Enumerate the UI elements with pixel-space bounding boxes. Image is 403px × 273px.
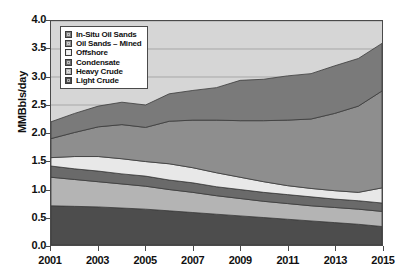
y-tick-label: 0.5: [0, 211, 46, 223]
y-tick-label: 3.0: [0, 70, 46, 82]
x-tick-label: 2007: [181, 254, 204, 266]
legend-label: Light Crude: [76, 76, 119, 85]
x-tick-mark: [50, 246, 51, 251]
legend-item: Light Crude: [65, 76, 142, 85]
y-tick-label: 3.5: [0, 41, 46, 53]
legend-swatch-icon: [65, 40, 72, 47]
x-tick-mark: [335, 246, 336, 251]
y-axis-ticks: 0.00.51.01.52.02.53.03.54.0: [0, 0, 50, 273]
x-tick-mark: [288, 246, 289, 251]
legend-item: Condensate: [65, 58, 142, 67]
legend-swatch-icon: [65, 31, 72, 38]
x-axis-ticks: 20012003200520072009201120132015: [0, 246, 403, 273]
x-tick-mark: [193, 246, 194, 251]
x-tick-label: 2005: [134, 254, 157, 266]
chart-figure: MMBbls/day 0.00.51.01.52.02.53.03.54.0 2…: [0, 0, 403, 273]
legend-item: Heavy Crude: [65, 67, 142, 76]
legend-item: Offshore: [65, 48, 142, 57]
x-tick-label: 2013: [324, 254, 347, 266]
x-tick-label: 2011: [277, 254, 300, 266]
legend-label: Offshore: [76, 48, 108, 57]
legend-label: Condensate: [76, 58, 120, 67]
y-tick-label: 1.0: [0, 183, 46, 195]
y-tick-label: 2.5: [0, 98, 46, 110]
x-tick-mark: [240, 246, 241, 251]
legend-item: Oil Sands – Mined: [65, 39, 142, 48]
x-tick-label: 2001: [38, 254, 61, 266]
legend-label: Oil Sands – Mined: [76, 39, 142, 48]
legend-swatch-icon: [65, 59, 72, 66]
legend-label: Heavy Crude: [76, 67, 123, 76]
y-tick-label: 1.5: [0, 154, 46, 166]
chart-legend: In-Situ Oil SandsOil Sands – MinedOffsho…: [60, 26, 148, 89]
legend-item: In-Situ Oil Sands: [65, 30, 142, 39]
x-tick-mark: [383, 246, 384, 251]
x-tick-label: 2003: [86, 254, 109, 266]
legend-swatch-icon: [65, 49, 72, 56]
y-tick-label: 2.0: [0, 126, 46, 138]
x-tick-label: 2015: [371, 254, 394, 266]
legend-swatch-icon: [65, 68, 72, 75]
legend-label: In-Situ Oil Sands: [76, 30, 137, 39]
legend-swatch-icon: [65, 77, 72, 84]
x-tick-mark: [98, 246, 99, 251]
y-tick-label: 4.0: [0, 13, 46, 25]
x-tick-mark: [145, 246, 146, 251]
x-tick-label: 2009: [229, 254, 252, 266]
